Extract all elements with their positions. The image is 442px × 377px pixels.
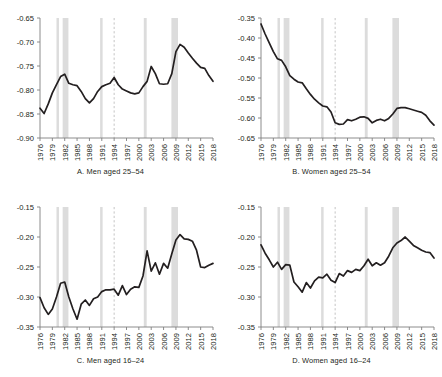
x-tick-label: 2018 bbox=[430, 333, 439, 350]
x-tick-label: 1979 bbox=[48, 144, 57, 161]
x-tick-label: 1991 bbox=[319, 333, 328, 350]
y-tick-label: -0.15 bbox=[238, 203, 255, 212]
x-tick-label: 1991 bbox=[98, 333, 107, 350]
x-tick-label: 2018 bbox=[209, 333, 218, 350]
x-tick-label: 2003 bbox=[147, 333, 156, 350]
x-tick-label: 1994 bbox=[110, 333, 119, 350]
x-tick-label: 1997 bbox=[344, 333, 353, 350]
recession-band bbox=[284, 18, 290, 138]
x-tick-label: 1994 bbox=[331, 144, 340, 161]
x-tick-label: 2012 bbox=[184, 144, 193, 161]
recession-band bbox=[392, 18, 399, 138]
recession-band bbox=[56, 207, 58, 327]
chart-panel-c: -0.15-0.20-0.25-0.30-0.35197619791982198… bbox=[0, 189, 221, 377]
x-tick-label: 1976 bbox=[36, 144, 45, 161]
x-tick-label: 2015 bbox=[197, 144, 206, 161]
x-tick-label: 1988 bbox=[306, 333, 315, 350]
recession-band bbox=[277, 18, 279, 138]
y-tick-label: -0.45 bbox=[238, 54, 255, 63]
y-tick-label: -0.70 bbox=[17, 38, 34, 47]
chart-panel-a: -0.65-0.70-0.75-0.80-0.85-0.901976197919… bbox=[0, 0, 221, 188]
y-tick-label: -0.55 bbox=[238, 94, 255, 103]
x-tick-label: 1997 bbox=[344, 144, 353, 161]
y-tick-label: -0.20 bbox=[238, 233, 255, 242]
x-tick-label: 1988 bbox=[85, 144, 94, 161]
x-tick-label: 2018 bbox=[430, 144, 439, 161]
x-tick-label: 2006 bbox=[160, 144, 169, 161]
y-tick-label: -0.80 bbox=[17, 86, 34, 95]
x-tick-label: 1985 bbox=[73, 333, 82, 350]
x-tick-label: 2015 bbox=[418, 144, 427, 161]
panel-caption-d: D. Women aged 16–24 bbox=[221, 356, 442, 365]
x-tick-label: 1976 bbox=[257, 144, 266, 161]
plot-area-c: -0.15-0.20-0.25-0.30-0.35197619791982198… bbox=[0, 189, 221, 377]
plot-area-d: -0.15-0.20-0.25-0.30-0.35197619791982198… bbox=[221, 189, 442, 377]
recession-band bbox=[392, 207, 399, 327]
y-tick-label: -0.15 bbox=[17, 203, 34, 212]
x-tick-label: 1976 bbox=[257, 333, 266, 350]
x-tick-label: 2006 bbox=[381, 144, 390, 161]
x-tick-label: 2003 bbox=[368, 144, 377, 161]
figure-container: -0.65-0.70-0.75-0.80-0.85-0.901976197919… bbox=[0, 0, 442, 377]
x-tick-label: 1988 bbox=[306, 144, 315, 161]
recession-band bbox=[365, 18, 368, 138]
y-tick-label: -0.25 bbox=[17, 263, 34, 272]
x-tick-label: 1979 bbox=[48, 333, 57, 350]
recession-band bbox=[100, 18, 102, 138]
x-tick-label: 1979 bbox=[269, 333, 278, 350]
recession-band bbox=[56, 18, 58, 138]
x-tick-label: 1982 bbox=[61, 144, 70, 161]
x-tick-label: 2009 bbox=[393, 333, 402, 350]
x-tick-label: 2012 bbox=[184, 333, 193, 350]
x-tick-label: 1976 bbox=[36, 333, 45, 350]
x-tick-label: 2009 bbox=[393, 144, 402, 161]
x-tick-label: 1994 bbox=[331, 333, 340, 350]
x-tick-label: 2000 bbox=[356, 144, 365, 161]
plot-area-b: -0.35-0.40-0.45-0.50-0.55-0.60-0.6519761… bbox=[221, 0, 442, 188]
y-tick-label: -0.30 bbox=[17, 293, 34, 302]
x-tick-label: 2012 bbox=[405, 144, 414, 161]
x-tick-label: 1982 bbox=[282, 333, 291, 350]
y-tick-label: -0.60 bbox=[238, 114, 255, 123]
x-tick-label: 2018 bbox=[209, 144, 218, 161]
x-tick-label: 1994 bbox=[110, 144, 119, 161]
x-tick-label: 2000 bbox=[135, 144, 144, 161]
x-tick-label: 1982 bbox=[282, 144, 291, 161]
x-tick-label: 1985 bbox=[294, 333, 303, 350]
y-tick-label: -0.50 bbox=[238, 74, 255, 83]
x-tick-label: 1991 bbox=[319, 144, 328, 161]
x-tick-label: 1985 bbox=[73, 144, 82, 161]
x-tick-label: 2003 bbox=[147, 144, 156, 161]
panel-caption-a: A. Men aged 25–54 bbox=[0, 167, 221, 176]
y-tick-label: -0.20 bbox=[17, 233, 34, 242]
recession-band bbox=[100, 207, 102, 327]
x-tick-label: 2000 bbox=[135, 333, 144, 350]
x-tick-label: 2015 bbox=[197, 333, 206, 350]
y-tick-label: -0.65 bbox=[17, 14, 34, 23]
x-tick-label: 2003 bbox=[368, 333, 377, 350]
y-tick-label: -0.75 bbox=[17, 62, 34, 71]
x-tick-label: 2006 bbox=[160, 333, 169, 350]
y-tick-label: -0.85 bbox=[17, 110, 34, 119]
x-tick-label: 1985 bbox=[294, 144, 303, 161]
x-tick-label: 1997 bbox=[123, 144, 132, 161]
recession-band bbox=[365, 207, 368, 327]
recession-band bbox=[321, 207, 323, 327]
x-tick-label: 2000 bbox=[356, 333, 365, 350]
x-tick-label: 1979 bbox=[269, 144, 278, 161]
y-tick-label: -0.40 bbox=[238, 34, 255, 43]
panel-caption-b: B. Women aged 25–54 bbox=[221, 167, 442, 176]
recession-band bbox=[321, 18, 323, 138]
y-tick-label: -0.35 bbox=[17, 323, 34, 332]
chart-panel-d: -0.15-0.20-0.25-0.30-0.35197619791982198… bbox=[221, 189, 442, 377]
plot-area-a: -0.65-0.70-0.75-0.80-0.85-0.901976197919… bbox=[0, 0, 221, 188]
x-tick-label: 2015 bbox=[418, 333, 427, 350]
y-tick-label: -0.90 bbox=[17, 134, 34, 143]
recession-band bbox=[171, 207, 178, 327]
y-tick-label: -0.25 bbox=[238, 263, 255, 272]
y-tick-label: -0.35 bbox=[238, 323, 255, 332]
x-tick-label: 1997 bbox=[123, 333, 132, 350]
recession-band bbox=[144, 18, 147, 138]
x-tick-label: 2009 bbox=[172, 144, 181, 161]
y-tick-label: -0.35 bbox=[238, 14, 255, 23]
